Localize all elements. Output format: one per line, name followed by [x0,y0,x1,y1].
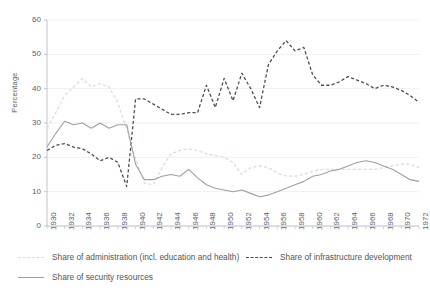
legend-label-security: Share of security resources [52,272,153,282]
legend-label-infrastructure: Share of infrastructure development [280,252,412,262]
series-line-infrastructure [47,41,419,187]
legend-item-administration: Share of administration (incl. education… [18,252,239,262]
legend-item-infrastructure: Share of infrastructure development [246,252,412,262]
legend-marker-infrastructure-icon [246,257,272,258]
legend-marker-administration-icon [18,257,44,258]
legend-item-security: Share of security resources [18,272,153,282]
legend-marker-security-icon [18,277,44,278]
series-line-administration [47,78,419,184]
legend-label-administration: Share of administration (incl. education… [52,252,239,262]
